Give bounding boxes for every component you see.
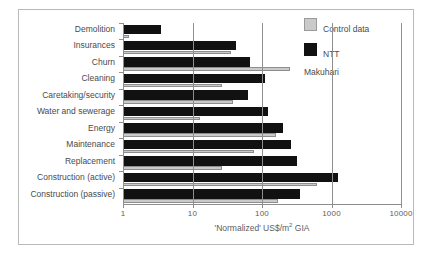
gridline-100 xyxy=(262,23,263,204)
bar-control-data xyxy=(123,117,200,121)
category-label: Replacement xyxy=(65,156,115,166)
bar-control-data xyxy=(123,150,254,154)
bar-control-data xyxy=(123,199,278,203)
x-axis-title-prefix: 'Normalized' US$/m xyxy=(215,223,290,233)
category-label: Churn xyxy=(92,57,115,67)
x-tick-label-10000: 10000 xyxy=(389,209,412,218)
category-label: Water and sewerage xyxy=(37,106,115,116)
bar-control-data xyxy=(123,84,222,88)
bar-ntt-makuhari xyxy=(123,107,268,117)
gridline-1000 xyxy=(332,23,333,204)
bar-ntt-makuhari xyxy=(123,123,283,133)
category-label: Energy xyxy=(88,123,115,133)
bar-control-data xyxy=(123,51,231,55)
gridline-1 xyxy=(123,23,124,204)
bar-control-data xyxy=(123,133,276,137)
x-axis-title-suffix: GIA xyxy=(292,223,309,233)
bar-ntt-makuhari xyxy=(123,25,161,35)
category-label: Construction (passive) xyxy=(30,189,115,199)
x-tick-label-1: 1 xyxy=(121,209,126,218)
gridline-10 xyxy=(193,23,194,204)
chart-figure: Control data NTT Makuhari DemolitionInsu… xyxy=(18,9,414,245)
bar-ntt-makuhari xyxy=(123,57,250,67)
x-tick-label-1000: 1000 xyxy=(322,209,341,218)
category-label: Insurances xyxy=(73,40,115,50)
x-tick-label-100: 100 xyxy=(255,209,269,218)
category-label: Construction (active) xyxy=(37,172,115,182)
gridline-10000 xyxy=(401,23,402,204)
category-label: Maintenance xyxy=(66,139,115,149)
bar-ntt-makuhari xyxy=(123,173,338,183)
bar-ntt-makuhari xyxy=(123,41,236,51)
bar-control-data xyxy=(123,100,233,104)
x-tick-mark-1000 xyxy=(332,204,333,208)
bar-ntt-makuhari xyxy=(123,74,265,84)
category-label: Demolition xyxy=(75,24,115,34)
category-label: Cleaning xyxy=(81,73,115,83)
x-tick-label-10: 10 xyxy=(188,209,197,218)
bar-ntt-makuhari xyxy=(123,90,248,100)
x-tick-mark-10 xyxy=(193,204,194,208)
x-axis-title: 'Normalized' US$/m2 GIA xyxy=(123,222,401,233)
bar-control-data xyxy=(123,183,317,187)
category-label: Caretaking/security xyxy=(42,90,115,100)
bar-ntt-makuhari xyxy=(123,156,297,166)
bar-ntt-makuhari xyxy=(123,140,291,150)
bar-control-data xyxy=(123,67,290,71)
bar-control-data xyxy=(123,166,222,170)
bar-ntt-makuhari xyxy=(123,189,300,199)
x-tick-mark-10000 xyxy=(401,204,402,208)
x-tick-mark-100 xyxy=(262,204,263,208)
x-tick-mark-1 xyxy=(123,204,124,208)
